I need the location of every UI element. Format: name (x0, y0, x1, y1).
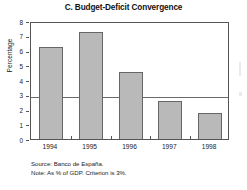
scan-artifact (239, 62, 241, 76)
y-axis-tick-label: 0 (3, 136, 23, 145)
bar-1998 (198, 113, 222, 140)
bar-1995 (79, 32, 103, 140)
y-axis-tick-mark (26, 96, 29, 97)
x-axis-tick-label-1995: 1995 (70, 143, 110, 150)
bar-1997 (158, 101, 182, 140)
y-axis-tick-label: 2 (3, 106, 23, 115)
y-axis-tick-mark (26, 81, 29, 82)
y-axis-tick-label: 3 (3, 91, 23, 100)
y-axis-tick-mark (26, 140, 29, 141)
y-axis-tick-mark (26, 37, 29, 38)
x-axis-tick-mark (190, 136, 191, 139)
plot-area (30, 22, 229, 140)
y-axis-tick-label: 7 (3, 32, 23, 41)
y-axis-tick-label: 4 (3, 77, 23, 86)
y-axis-tick-mark (26, 111, 29, 112)
bar-1996 (119, 72, 143, 140)
figure-budget-deficit-convergence: C. Budget-Deficit Convergence Percentage… (0, 0, 247, 190)
plot-inner (31, 23, 228, 139)
x-axis-tick-mark (111, 136, 112, 139)
scan-artifact (239, 92, 242, 96)
y-axis-tick-label: 1 (3, 121, 23, 130)
x-axis-tick-label-1996: 1996 (110, 143, 150, 150)
chart-title: C. Budget-Deficit Convergence (0, 3, 247, 12)
x-axis-tick-label-1998: 1998 (189, 143, 229, 150)
y-axis-tick-mark (26, 66, 29, 67)
footnote-note: Note: As % of GDP. Criterion is 3%. (31, 169, 231, 178)
footnote-source: Source: Banco de España. (31, 160, 231, 169)
y-axis-tick-label: 8 (3, 18, 23, 27)
x-axis-tick-mark (150, 136, 151, 139)
x-axis-tick-label-1994: 1994 (30, 143, 70, 150)
footnotes: Source: Banco de España. Note: As % of G… (31, 160, 231, 177)
y-axis-tick-mark (26, 22, 29, 23)
y-axis-tick-mark (26, 52, 29, 53)
x-axis-tick-label-1997: 1997 (149, 143, 189, 150)
y-axis-tick-label: 6 (3, 47, 23, 56)
bar-1994 (39, 47, 63, 140)
x-axis-tick-mark (71, 136, 72, 139)
y-axis-tick-label: 5 (3, 62, 23, 71)
y-axis-tick-mark (26, 125, 29, 126)
